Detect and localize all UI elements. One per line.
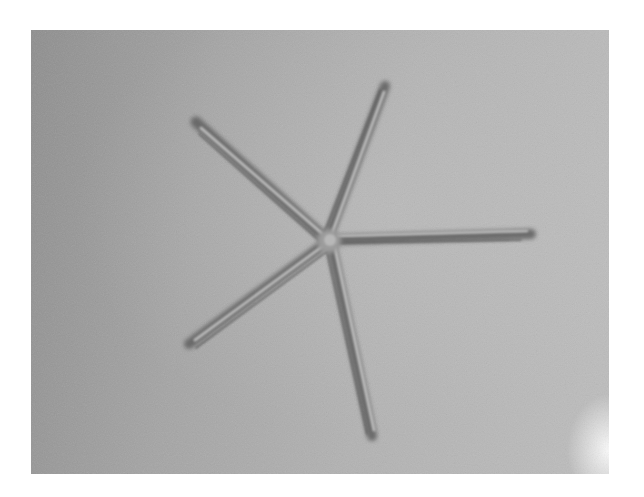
starfish-shape	[31, 30, 609, 474]
starfish-photo	[31, 30, 609, 474]
